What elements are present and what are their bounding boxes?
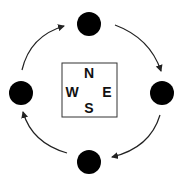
compass-west: W: [65, 84, 79, 100]
arrow-left-to-top: [22, 26, 64, 70]
node-bottom: [77, 150, 101, 174]
node-right: [150, 81, 174, 105]
node-left: [9, 81, 33, 105]
compass-south: S: [84, 100, 93, 116]
arrow-top-to-right: [115, 25, 161, 71]
compass-east: E: [102, 84, 111, 100]
node-top: [77, 12, 101, 36]
arrow-right-to-bottom: [112, 115, 160, 157]
arrow-bottom-to-left: [23, 112, 67, 153]
rotation-diagram: N W E S: [0, 0, 181, 182]
compass-north: N: [84, 65, 94, 81]
